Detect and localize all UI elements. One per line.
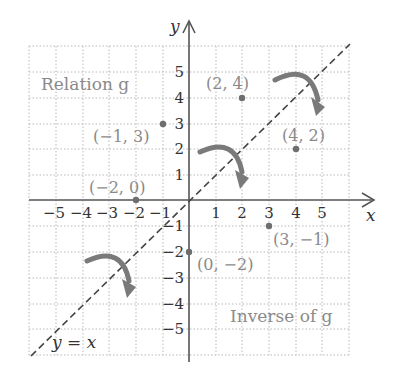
relation-inverse-diagram: x y −5 −4 −3 −2 −1 1 2 3 4 5 5 4 3 2 1 −… [0,0,404,370]
x-tick: −2 [123,204,145,222]
x-tick: 2 [237,204,247,222]
y-tick: −1 [162,217,184,235]
y-tick: −3 [162,269,184,287]
inverse-g-label: Inverse of g [230,306,333,326]
y-tick: −2 [162,243,184,261]
point-label: (0, −2) [197,255,253,274]
point-label: (−2, 0) [89,178,145,197]
x-tick: 3 [264,204,274,222]
point-4-2 [293,146,299,152]
relation-g-label: Relation g [41,74,129,94]
identity-line-label: y = x [51,332,97,352]
x-tick: 5 [317,204,327,222]
x-tick: 1 [211,204,221,222]
y-tick: 1 [174,166,184,184]
y-tick: 5 [174,63,184,81]
point-3-neg1 [266,223,272,229]
y-tick: 3 [174,115,184,133]
x-tick: 4 [291,204,301,222]
y-tick: −5 [162,320,184,338]
point-2-4 [239,95,245,101]
point-label: (2, 4) [206,74,249,93]
y-tick: 4 [174,89,184,107]
point-neg2-0 [133,197,139,203]
point-neg1-3 [160,121,166,127]
point-label: (4, 2) [282,126,325,145]
y-axis-label: y [169,16,180,36]
y-tick: 2 [174,140,184,158]
reflection-arrow-upper [275,74,325,116]
x-tick: −4 [70,204,92,222]
point-label: (−1, 3) [93,127,149,146]
x-tick-labels: −5 −4 −3 −2 −1 1 2 3 4 5 [43,204,327,222]
y-axis [183,21,195,362]
x-axis-label: x [366,205,376,225]
x-tick: −3 [96,204,118,222]
x-tick: −5 [43,204,65,222]
point-0-neg2 [186,249,192,255]
y-tick: −4 [162,295,184,313]
point-label: (3, −1) [273,230,329,249]
